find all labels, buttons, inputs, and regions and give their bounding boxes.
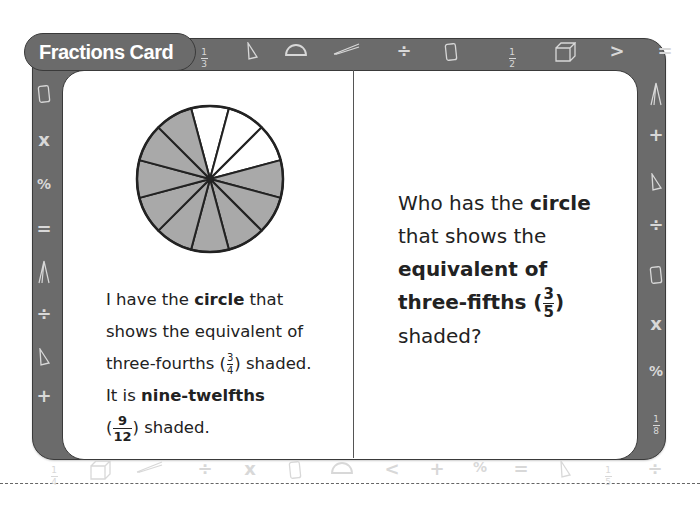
compass-icon [32, 260, 56, 284]
greater-than-sign-icon: > [605, 42, 629, 60]
protractor-icon [284, 42, 308, 56]
left-line-1: I have the circle that [106, 284, 346, 316]
fraction-nine-twelfths: 912 [113, 414, 131, 444]
triangle-icon [240, 42, 264, 60]
fraction-1-8-symbol: 18 [644, 409, 668, 436]
fraction-denominator: 2 [509, 60, 515, 69]
fraction-denominator: 8 [653, 427, 659, 436]
fraction-1-2-symbol: 12 [500, 42, 524, 69]
cylinder-icon [283, 460, 307, 480]
fraction-1-3-symbol: 13 [192, 42, 216, 69]
less-than-sign-icon: < [380, 460, 404, 478]
multiply-sign-icon: x [644, 315, 668, 333]
panel-divider [353, 70, 354, 458]
plus-sign-icon: + [425, 460, 449, 478]
cube-icon [553, 42, 577, 62]
multiply-sign-icon: x [238, 460, 262, 478]
divide-sign-icon: ÷ [392, 42, 416, 60]
divide-sign-icon: ÷ [193, 460, 217, 478]
triangle-icon [553, 460, 577, 478]
fraction-1-5-symbol: 15 [596, 460, 620, 487]
plus-sign-icon: + [644, 126, 668, 144]
cylinder-icon [644, 265, 668, 285]
equals-sign-icon: = [32, 220, 56, 238]
equals-sign-icon: = [509, 460, 533, 478]
left-line-3: three-fourths (34) shaded. [106, 348, 346, 380]
protractor-icon [330, 460, 354, 474]
divide-sign-icon: ÷ [32, 305, 56, 323]
right-line-4: three-fifths (35) [398, 286, 618, 320]
ruler-icon [136, 460, 160, 474]
fraction-three-fifths: 35 [543, 287, 553, 321]
triangle-icon [32, 348, 56, 366]
left-line-5: (912) shaded. [106, 412, 346, 444]
cube-icon [88, 460, 112, 480]
percent-sign-icon: % [644, 364, 668, 378]
left-line-2: shows the equivalent of [106, 316, 346, 348]
fraction-three-fourths: 34 [227, 353, 233, 377]
pie-center [207, 176, 213, 182]
fraction-denominator: 5 [605, 478, 611, 487]
multiply-sign-icon: x [32, 131, 56, 149]
fraction-circle [134, 103, 286, 255]
triangle-icon [644, 173, 668, 191]
right-panel-text: Who has the circle that shows the equiva… [398, 187, 618, 353]
compass-icon [644, 82, 668, 106]
ruler-icon [333, 42, 357, 56]
right-line-3: equivalent of [398, 253, 618, 286]
fraction-numerator: 1 [653, 415, 659, 424]
fraction-numerator: 1 [201, 48, 207, 57]
fraction-1-4-symbol: 14 [42, 460, 66, 487]
right-line-1: Who has the circle [398, 187, 618, 220]
fraction-numerator: 1 [509, 48, 515, 57]
card-title: Fractions Card [24, 33, 196, 71]
cylinder-icon [32, 84, 56, 104]
fraction-denominator: 4 [51, 478, 57, 487]
fraction-numerator: 1 [605, 466, 611, 475]
cylinder-icon [439, 42, 463, 62]
equals-sign-icon: = [653, 42, 677, 60]
right-line-2: that shows the [398, 220, 618, 253]
cut-line [0, 483, 700, 484]
divide-sign-icon: ÷ [643, 460, 667, 478]
fraction-denominator: 3 [201, 60, 207, 69]
plus-sign-icon: + [32, 387, 56, 405]
divide-sign-icon: ÷ [644, 216, 668, 234]
left-panel-text: I have the circle that shows the equival… [106, 284, 346, 444]
fraction-numerator: 1 [51, 466, 57, 475]
percent-sign-icon: % [468, 460, 492, 474]
right-line-5: shaded? [398, 320, 618, 353]
left-line-4: It is nine-twelfths [106, 380, 346, 412]
percent-sign-icon: % [32, 177, 56, 191]
